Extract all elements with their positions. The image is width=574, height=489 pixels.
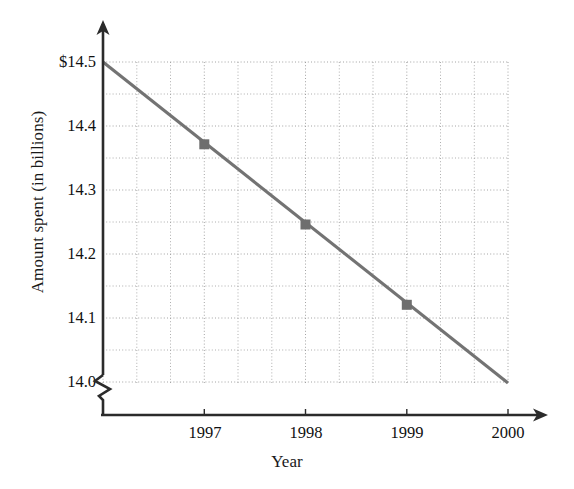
plot-area (0, 0, 574, 489)
data-point-1998[interactable] (301, 220, 311, 230)
axis-break-zigzag (95, 375, 110, 415)
y-axis-line (95, 20, 110, 415)
data-point-1999[interactable] (402, 300, 412, 310)
chart-figure: Amount spent (in billions) Year $14.5 14… (0, 0, 574, 489)
data-point-1997[interactable] (199, 139, 209, 149)
x-axis-line (101, 409, 548, 422)
